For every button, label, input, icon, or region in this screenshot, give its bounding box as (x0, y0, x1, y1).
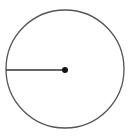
circle-diagram (0, 0, 133, 137)
center-point (62, 67, 68, 73)
